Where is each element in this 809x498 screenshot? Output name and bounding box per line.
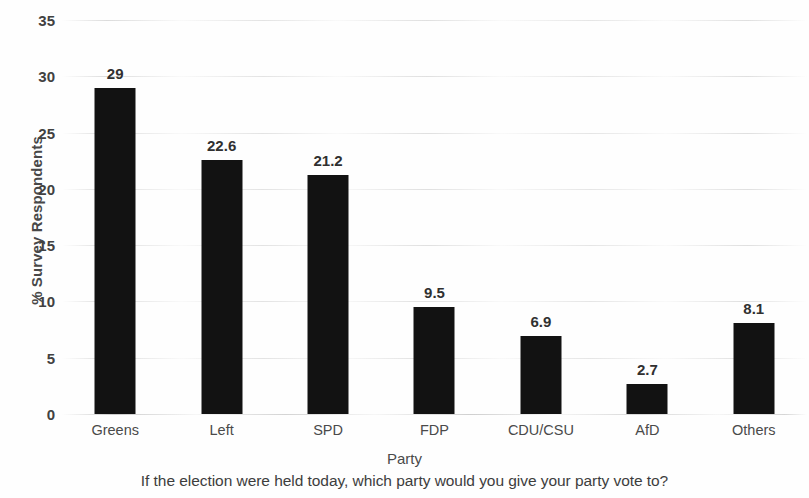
bar-value-label: 6.9 — [530, 313, 551, 330]
bar[interactable] — [520, 336, 561, 414]
bar-slot: 8.1 — [701, 20, 807, 414]
bar-slot: 9.5 — [381, 20, 487, 414]
y-axis-tick-label: 15 — [15, 237, 55, 254]
bar-value-label: 8.1 — [743, 300, 764, 317]
x-axis-tick-label: FDP — [420, 422, 449, 438]
bar-value-label: 29 — [107, 65, 124, 82]
bar-slot: 22.6 — [168, 20, 274, 414]
bar-value-label: 22.6 — [207, 137, 236, 154]
y-axis-tick-label: 5 — [15, 349, 55, 366]
bar-slot: 6.9 — [488, 20, 594, 414]
y-axis-tick-label: 25 — [15, 124, 55, 141]
x-axis-tick-label: CDU/CSU — [508, 422, 574, 438]
gridline — [62, 414, 807, 415]
bar[interactable] — [95, 88, 136, 414]
bar[interactable] — [201, 160, 242, 414]
x-axis-tick-label: Left — [210, 422, 234, 438]
bar-value-label: 9.5 — [424, 284, 445, 301]
x-axis-title: Party — [0, 450, 809, 467]
bar[interactable] — [414, 307, 455, 414]
y-axis-tick-label: 10 — [15, 293, 55, 310]
bar-series: 2922.621.29.56.92.78.1 — [62, 20, 807, 414]
bar[interactable] — [627, 384, 668, 414]
bar-value-label: 21.2 — [313, 152, 342, 169]
bar-slot: 21.2 — [275, 20, 381, 414]
x-axis-tick-label: Greens — [91, 422, 139, 438]
chart-caption: If the election were held today, which p… — [0, 472, 809, 490]
x-axis-tick-label: SPD — [313, 422, 343, 438]
y-axis-tick-label: 35 — [15, 12, 55, 29]
bar-slot: 29 — [62, 20, 168, 414]
x-axis-tick-label: Others — [732, 422, 776, 438]
bar[interactable] — [308, 175, 349, 414]
y-axis-tick-label: 30 — [15, 68, 55, 85]
y-axis-tick-label: 0 — [15, 406, 55, 423]
bar-slot: 2.7 — [594, 20, 700, 414]
bar-chart-figure: % Survey Respondents 05101520253035 2922… — [0, 0, 809, 498]
bar-value-label: 2.7 — [637, 361, 658, 378]
y-axis-title: % Survey Respondents — [28, 81, 45, 361]
x-axis-tick-label: AfD — [635, 422, 659, 438]
y-axis-tick-label: 20 — [15, 180, 55, 197]
bar[interactable] — [733, 323, 774, 414]
plot-area: 05101520253035 2922.621.29.56.92.78.1 — [62, 20, 807, 414]
